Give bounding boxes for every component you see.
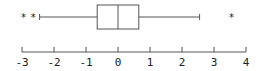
outlier-marker: * [229, 12, 235, 23]
tick-label: 1 [147, 56, 154, 69]
box-plot: *** -3-2-101234 [0, 0, 260, 71]
tick-label: 3 [211, 56, 218, 69]
tick-label: 0 [115, 56, 122, 69]
tick-label: -3 [15, 56, 28, 69]
box-plot-body: *** [21, 5, 235, 29]
x-axis: -3-2-101234 [15, 47, 249, 69]
tick-label: 4 [243, 56, 250, 69]
outlier-marker: * [21, 12, 27, 23]
tick-label: -2 [47, 56, 60, 69]
tick-label: 2 [179, 56, 186, 69]
tick-label: -1 [79, 56, 92, 69]
outlier-marker: * [30, 12, 36, 23]
